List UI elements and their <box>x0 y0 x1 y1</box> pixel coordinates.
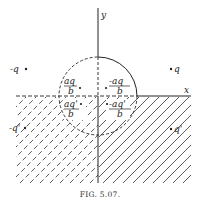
image-charge-upper-right: -aq b <box>105 76 130 96</box>
charge-neg-q-prime-label: -q' <box>9 123 20 133</box>
svg-text:b: b <box>68 86 74 96</box>
figure-5-07: y x -q q -q' q' aq b -aq b aq' b -aq' b … <box>0 0 199 209</box>
svg-text:-aq: -aq <box>109 76 123 86</box>
svg-text:b: b <box>117 86 123 96</box>
charge-neg-q-label: -q <box>10 64 19 74</box>
image-charge-upper-left: aq b <box>64 76 81 96</box>
svg-text:aq': aq' <box>64 99 78 109</box>
x-axis-label: x <box>184 85 189 95</box>
charge-q-prime-label: q' <box>174 124 182 134</box>
y-axis-label: y <box>100 10 107 20</box>
svg-text:b: b <box>117 109 123 119</box>
charge-neg-q-prime-dot <box>24 127 26 129</box>
svg-text:-aq': -aq' <box>109 99 126 109</box>
svg-text:b: b <box>68 109 74 119</box>
figure-caption: FIG. 5.07. <box>80 190 121 199</box>
charge-q-dot <box>170 68 172 70</box>
charge-q-label: q <box>174 64 180 74</box>
charge-q-prime-dot <box>170 128 172 130</box>
charge-neg-q-dot <box>25 68 27 70</box>
hatching-dashed-lower-left <box>0 97 176 183</box>
svg-text:aq: aq <box>64 76 75 86</box>
